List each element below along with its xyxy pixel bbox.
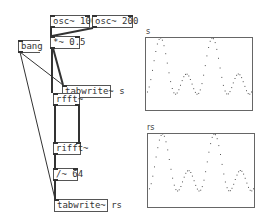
bang-message[interactable]: bang	[18, 40, 40, 53]
sample-point	[208, 47, 209, 48]
sample-point	[243, 174, 244, 175]
sample-point	[235, 179, 236, 180]
sample-point	[178, 89, 179, 90]
sample-point	[210, 143, 211, 144]
sample-point	[253, 188, 254, 189]
sample-point	[237, 175, 238, 176]
divide-object[interactable]: /~ 64	[53, 168, 78, 181]
sample-point	[232, 188, 233, 189]
sample-point	[166, 141, 167, 142]
sample-point	[235, 78, 236, 79]
sample-point	[231, 87, 232, 88]
sample-point	[243, 81, 244, 82]
sample-point	[223, 85, 224, 86]
sample-point	[250, 190, 251, 191]
sample-point	[225, 91, 226, 92]
sample-point	[172, 178, 173, 179]
osc-100-object[interactable]: osc~ 100	[50, 15, 90, 28]
sample-point	[213, 134, 214, 135]
sample-point	[173, 92, 174, 93]
sample-point	[211, 38, 212, 39]
sample-point	[152, 176, 153, 177]
sample-point	[216, 49, 217, 50]
sample-point	[182, 80, 183, 81]
sample-point	[193, 88, 194, 89]
sample-point	[190, 172, 191, 173]
sample-point	[251, 190, 252, 191]
graph-s-plot	[146, 38, 252, 110]
sample-point	[223, 174, 224, 175]
sample-point	[180, 85, 181, 86]
multiply-object[interactable]: *~ 0.5	[50, 36, 80, 49]
sample-point	[155, 51, 156, 52]
sample-point	[202, 83, 203, 84]
sample-point	[221, 77, 222, 78]
sample-point	[177, 191, 178, 192]
sample-point	[198, 93, 199, 94]
sample-point	[172, 88, 173, 89]
sample-point	[210, 41, 211, 42]
sample-point	[215, 42, 216, 43]
sample-point	[225, 182, 226, 183]
sample-point	[197, 94, 198, 95]
object-label: rfft~	[56, 94, 83, 104]
sample-point	[246, 183, 247, 184]
object-label: /~ 64	[56, 169, 83, 179]
cord-mult-tabwrite-s[interactable]	[53, 48, 63, 85]
sample-point	[180, 186, 181, 187]
sample-point	[248, 93, 249, 94]
sample-point	[187, 74, 188, 75]
sample-point	[192, 176, 193, 177]
sample-point	[167, 63, 168, 64]
graph-s[interactable]	[145, 37, 253, 111]
sample-point	[217, 138, 218, 139]
cord-bang-tabwrite-rs[interactable]	[20, 52, 55, 199]
sample-point	[154, 166, 155, 167]
graph-rs[interactable]	[147, 133, 255, 208]
sample-point	[249, 94, 250, 95]
sample-point	[240, 170, 241, 171]
sample-point	[200, 89, 201, 90]
tabwrite-rs-object[interactable]: tabwrite~ rs	[54, 199, 108, 212]
sample-point	[157, 44, 158, 45]
sample-point	[238, 74, 239, 75]
sample-point	[233, 82, 234, 83]
sample-point	[157, 147, 158, 148]
graph-rs-plot	[148, 134, 254, 207]
rfft-object[interactable]: rfft~	[53, 93, 80, 106]
sample-point	[162, 40, 163, 41]
sample-point	[195, 92, 196, 93]
osc-200-object[interactable]: osc~ 200	[92, 15, 133, 28]
graph-s-label: s	[146, 27, 150, 36]
object-label: rifft~	[56, 143, 89, 153]
sample-point	[177, 93, 178, 94]
sample-point	[197, 189, 198, 190]
sample-point	[160, 38, 161, 39]
sample-point	[152, 70, 153, 71]
sample-point	[169, 72, 170, 73]
sample-point	[241, 77, 242, 78]
sample-point	[164, 45, 165, 46]
cord-osc2-mult[interactable]	[52, 28, 93, 36]
sample-point	[208, 152, 209, 153]
sample-point	[227, 187, 228, 188]
sample-point	[149, 188, 150, 189]
sample-point	[159, 140, 160, 141]
sample-point	[149, 87, 150, 88]
sample-point	[218, 58, 219, 59]
rifft-object[interactable]: rifft~	[53, 142, 81, 155]
sample-point	[190, 79, 191, 80]
message-label: bang	[21, 41, 43, 51]
sample-point	[151, 183, 152, 184]
sample-point	[187, 170, 188, 171]
sample-point	[218, 145, 219, 146]
sample-point	[162, 134, 163, 135]
sample-point	[182, 181, 183, 182]
sample-point	[189, 170, 190, 171]
sample-point	[169, 159, 170, 160]
sample-point	[230, 91, 231, 92]
sample-point	[199, 191, 200, 192]
graph-rs-label: rs	[147, 123, 154, 132]
sample-point	[164, 136, 165, 137]
sample-point	[228, 93, 229, 94]
